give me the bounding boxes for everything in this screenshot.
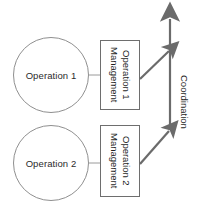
diagram-vector-layer	[0, 0, 199, 210]
diagram-canvas: Operation 1 Operation 2 Operation 1 Mana…	[0, 0, 199, 210]
operation-1-circle[interactable]	[14, 38, 89, 113]
operation-2-to-coordination-arrow	[140, 131, 169, 164]
operation-1-management-line1: Operation 1	[121, 50, 132, 100]
operation-2-management-line1: Operation 2	[121, 136, 132, 186]
operation-2-management-label: Operation 2 Management	[101, 126, 139, 196]
operation-2-management-line2: Management	[109, 133, 120, 188]
operation-1-to-coordination-arrow	[140, 51, 169, 79]
operation-1-management-label: Operation 1 Management	[101, 41, 139, 109]
coordination-axis-label: Coordination	[176, 52, 192, 152]
operation-2-circle[interactable]	[14, 126, 89, 201]
coordination-axis-label-text: Coordination	[179, 75, 190, 129]
operation-1-management-line2: Management	[109, 47, 120, 102]
